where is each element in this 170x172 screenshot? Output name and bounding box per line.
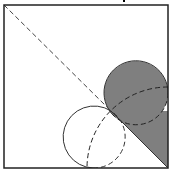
diagonal-dashed xyxy=(4,5,111,111)
white-circle-dashed-arc xyxy=(93,111,125,168)
caption-fragment-mark xyxy=(123,0,125,2)
geometry-figure xyxy=(0,0,170,172)
white-circle-outline xyxy=(63,106,111,168)
